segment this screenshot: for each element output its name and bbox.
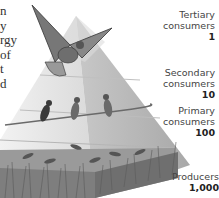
count-tertiary: 1 (163, 31, 215, 42)
grass-layer (0, 142, 178, 198)
count-producers: 1,000 (172, 182, 219, 193)
count-secondary: 10 (163, 89, 215, 100)
label-secondary-consumers: Secondary consumers 10 (163, 67, 215, 100)
pyramid-figure: n y rgy of t d (0, 0, 219, 198)
label-producers: Producers 1,000 (172, 171, 219, 193)
count-primary: 100 (163, 127, 215, 138)
label-primary-consumers: Primary consumers 100 (163, 105, 215, 138)
label-tertiary-consumers: Tertiary consumers 1 (163, 9, 215, 42)
